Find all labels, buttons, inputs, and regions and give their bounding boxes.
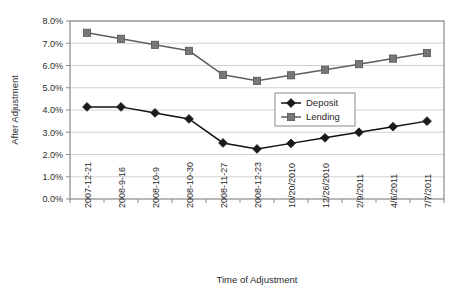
y-tick-label: 0.0% bbox=[42, 194, 63, 204]
y-tick-label: 3.0% bbox=[42, 128, 63, 138]
x-axis-title: Time of Adjustment bbox=[217, 274, 298, 285]
data-point-marker bbox=[287, 113, 294, 120]
data-point-marker bbox=[355, 61, 362, 68]
data-point-marker bbox=[253, 77, 260, 84]
x-tick-label: 2007-12-21 bbox=[83, 162, 93, 208]
x-tick-label: 12/26/2010 bbox=[321, 163, 331, 208]
y-tick-label: 7.0% bbox=[42, 39, 63, 49]
data-point-marker bbox=[185, 47, 192, 54]
legend-label-deposit: Deposit bbox=[306, 97, 339, 108]
x-tick-label: 4/6/2011 bbox=[389, 174, 399, 208]
y-tick-label: 5.0% bbox=[42, 83, 63, 93]
y-tick-label: 6.0% bbox=[42, 61, 63, 71]
chart-canvas: 0.0%1.0%2.0%3.0%4.0%5.0%6.0%7.0%8.0% 200… bbox=[0, 0, 459, 301]
data-point-marker bbox=[117, 35, 124, 42]
x-tick-label: 2008-10-9 bbox=[151, 167, 161, 208]
y-tick-label: 8.0% bbox=[42, 16, 63, 26]
x-tick-label: 2/9/2011 bbox=[355, 174, 365, 208]
x-tick-label: 2008-11-27 bbox=[219, 163, 229, 208]
y-axis-title: After Adjustment bbox=[9, 75, 20, 145]
data-point-marker bbox=[151, 41, 158, 48]
data-point-marker bbox=[389, 55, 396, 62]
chart-legend: DepositLending bbox=[275, 93, 355, 126]
line-chart: 0.0%1.0%2.0%3.0%4.0%5.0%6.0%7.0%8.0% 200… bbox=[0, 0, 459, 301]
legend-label-lending: Lending bbox=[306, 111, 340, 122]
data-point-marker bbox=[287, 72, 294, 79]
data-point-marker bbox=[219, 71, 226, 78]
x-tick-label: 10/20/2010 bbox=[287, 163, 297, 208]
y-tick-label: 2.0% bbox=[42, 150, 63, 160]
data-point-marker bbox=[83, 29, 90, 36]
x-tick-label: 7/7/2011 bbox=[423, 174, 433, 208]
x-tick-label: 2008-10-30 bbox=[185, 162, 195, 208]
x-tick-label: 2008-9-16 bbox=[117, 167, 127, 208]
x-tick-label: 2008-12-23 bbox=[253, 162, 263, 208]
data-point-marker bbox=[423, 49, 430, 56]
y-axis-tick-labels: 0.0%1.0%2.0%3.0%4.0%5.0%6.0%7.0%8.0% bbox=[42, 16, 63, 204]
y-tick-label: 1.0% bbox=[42, 172, 63, 182]
y-tick-label: 4.0% bbox=[42, 105, 63, 115]
data-point-marker bbox=[321, 66, 328, 73]
